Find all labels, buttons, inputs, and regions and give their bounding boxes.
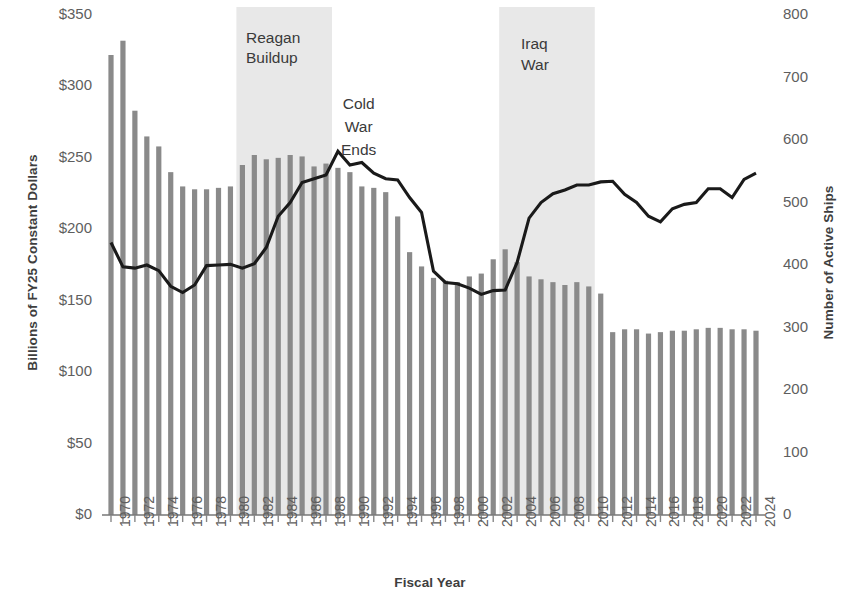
bar-1976 [180,186,185,515]
bar-1981 [240,165,245,515]
x-tick-label-1986: 1986 [308,496,324,527]
bar-2017 [670,331,675,515]
bar-2011 [598,294,603,515]
x-tick-label-2022: 2022 [738,496,754,527]
y-tick-right-200: 200 [783,380,843,397]
bar-2018 [682,331,687,515]
y-tick-right-600: 600 [783,130,843,147]
bar-1998 [443,281,448,515]
x-tick-label-2002: 2002 [499,496,515,527]
bar-1975 [168,172,173,515]
bar-1973 [144,136,149,515]
bar-1997 [431,278,436,515]
event-band-reagan-buildup [236,7,332,515]
bar-1982 [252,155,257,515]
x-tick-label-1982: 1982 [260,496,276,527]
x-tick-label-2016: 2016 [666,496,682,527]
x-tick-label-2010: 2010 [595,496,611,527]
x-tick-label-2024: 2024 [762,496,778,527]
bar-2013 [622,329,627,515]
bar-1995 [407,252,412,515]
y-tick-left-250: $250 [0,148,92,165]
bar-2024 [753,331,758,515]
bar-1979 [216,188,221,515]
y-tick-left-50: $50 [0,434,92,451]
annotation-cold-war-ends: Cold War Ends [341,92,376,161]
y-tick-right-100: 100 [783,443,843,460]
bar-2000 [467,276,472,515]
bar-2006 [538,279,543,515]
bar-2001 [479,274,484,515]
annotation-iraq-war: Iraq War [521,33,549,75]
bar-2016 [658,332,663,515]
bar-2002 [491,259,496,515]
y-tick-left-200: $200 [0,219,92,236]
bar-2005 [526,276,531,515]
y-tick-right-300: 300 [783,318,843,335]
x-tick-label-2000: 2000 [475,496,491,527]
bar-1971 [120,41,125,515]
bar-1992 [371,188,376,515]
bar-1970 [108,55,113,515]
bar-2008 [562,285,567,515]
x-tick-label-2008: 2008 [571,496,587,527]
bar-1980 [228,186,233,515]
bar-series-budget [108,41,758,515]
bar-2015 [646,334,651,515]
y-tick-left-300: $300 [0,76,92,93]
bar-1989 [335,168,340,515]
bar-2014 [634,329,639,515]
x-tick-label-1976: 1976 [189,496,205,527]
bar-1972 [132,111,137,515]
bar-2020 [706,328,711,515]
x-tick-label-1974: 1974 [165,496,181,527]
bar-1993 [383,192,388,515]
x-tick-label-1972: 1972 [141,496,157,527]
annotation-coldwar-line1: Cold [341,92,376,115]
x-tick-label-1988: 1988 [332,496,348,527]
bar-1983 [264,159,269,515]
annotation-iraq-line2: War [521,54,549,75]
bar-1991 [359,186,364,515]
annotation-coldwar-line3: Ends [341,138,376,161]
annotation-coldwar-line2: War [341,115,376,138]
y-tick-right-500: 500 [783,193,843,210]
y-tick-right-0: 0 [783,505,843,522]
bar-1996 [419,266,424,515]
bar-1985 [288,155,293,515]
bar-2022 [730,329,735,515]
event-band-iraq-war [499,7,595,515]
bar-1978 [204,189,209,515]
x-tick-label-2014: 2014 [643,496,659,527]
bar-2021 [718,328,723,515]
x-tick-label-2018: 2018 [690,496,706,527]
x-tick-label-2012: 2012 [619,496,635,527]
bar-2004 [515,262,520,515]
bar-1994 [395,216,400,515]
x-tick-label-1970: 1970 [117,496,133,527]
x-tick-label-1996: 1996 [428,496,444,527]
y-tick-left-350: $350 [0,5,92,22]
bar-1974 [156,146,161,515]
x-tick-label-2006: 2006 [547,496,563,527]
x-tick-label-1998: 1998 [451,496,467,527]
x-tick-label-1978: 1978 [213,496,229,527]
bar-2012 [610,332,615,515]
bar-2007 [550,282,555,515]
y-tick-left-0: $0 [0,505,92,522]
annotation-iraq-line1: Iraq [521,33,549,54]
bar-2009 [574,282,579,515]
bar-1988 [323,164,328,515]
x-tick-label-1990: 1990 [356,496,372,527]
bar-1999 [455,282,460,515]
y-tick-left-100: $100 [0,362,92,379]
annotation-reagan-line2: Buildup [246,48,300,68]
y-tick-right-800: 800 [783,5,843,22]
bar-1990 [347,172,352,515]
bar-1987 [311,166,316,515]
bar-2010 [586,286,591,515]
bar-1984 [276,158,281,515]
x-tick-label-2020: 2020 [714,496,730,527]
bar-2019 [694,329,699,515]
bar-2023 [741,329,746,515]
